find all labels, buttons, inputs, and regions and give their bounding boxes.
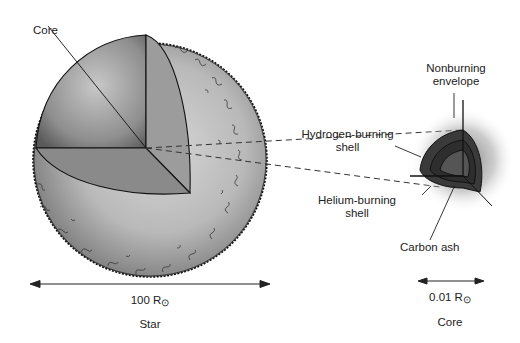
- star-scale-label: 100 R⊙: [110, 294, 190, 307]
- label-helium-shell: Helium-burning shell: [312, 194, 402, 220]
- star-caption: Star: [110, 318, 190, 331]
- core-scale-label: 0.01 R⊙: [410, 291, 490, 304]
- label-hydrogen-shell: Hydrogen-burning shell: [300, 128, 395, 154]
- sun-symbol-icon: ⊙: [463, 294, 471, 305]
- label-core: Core: [33, 24, 58, 37]
- sun-symbol-icon: ⊙: [161, 297, 169, 308]
- label-hydrogen-line2: shell: [300, 141, 395, 154]
- label-nonburning-line2: envelope: [410, 75, 502, 88]
- label-helium-line1: Helium-burning: [312, 194, 402, 207]
- label-carbon-ash: Carbon ash: [400, 241, 459, 254]
- label-nonburning-envelope: Nonburning envelope: [410, 62, 502, 88]
- star-scale-value: 100 R: [131, 294, 162, 306]
- label-helium-line2: shell: [312, 207, 402, 220]
- label-hydrogen-line1: Hydrogen-burning: [300, 128, 395, 141]
- core-scale-value: 0.01 R: [429, 291, 463, 303]
- label-nonburning-line1: Nonburning: [410, 62, 502, 75]
- scale-arrows: [30, 278, 484, 288]
- diagram-canvas: Core Nonburning envelope Hydrogen-burnin…: [0, 0, 520, 343]
- core-caption: Core: [410, 316, 490, 329]
